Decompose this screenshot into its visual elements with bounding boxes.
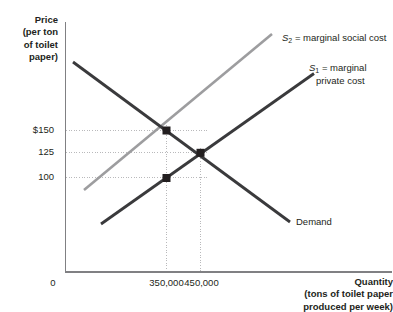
curve-label-s2-subscript: 2 [288, 37, 292, 44]
y-tick-label-125: 125 [0, 147, 54, 157]
data-point-350000-150 [163, 127, 171, 135]
curve-label-s1-subscript: 1 [315, 67, 319, 74]
curve-demand [73, 62, 290, 222]
curve-label-s1: S1 = marginal private cost [309, 62, 367, 87]
curve-label-s1-line2: private cost [309, 75, 367, 87]
y-tick-label-100: 100 [0, 172, 54, 182]
curve-label-s2-text: = marginal social cost [292, 32, 386, 43]
curve-label-s1-line1: S1 = marginal [309, 62, 367, 75]
curve-label-demand: Demand [296, 216, 332, 228]
x-axis-title: Quantity (tons of toilet paper produced … [212, 276, 393, 312]
axis-group [65, 22, 392, 273]
y-axis-title: Price (per ton of toilet paper) [0, 14, 58, 64]
origin-label: 0 [43, 278, 63, 288]
curve-s2-marginal-social-cost [84, 34, 272, 190]
y-tick-label-150: $150 [0, 125, 54, 135]
data-point-350000-100 [163, 174, 171, 182]
curve-label-s1-text: = marginal [319, 62, 366, 73]
data-point-450000-125 [197, 149, 205, 157]
data-point-group [163, 127, 205, 183]
x-tick-label-450000: 450,000 [173, 278, 230, 288]
curve-label-s2: S2 = marginal social cost [282, 32, 387, 45]
